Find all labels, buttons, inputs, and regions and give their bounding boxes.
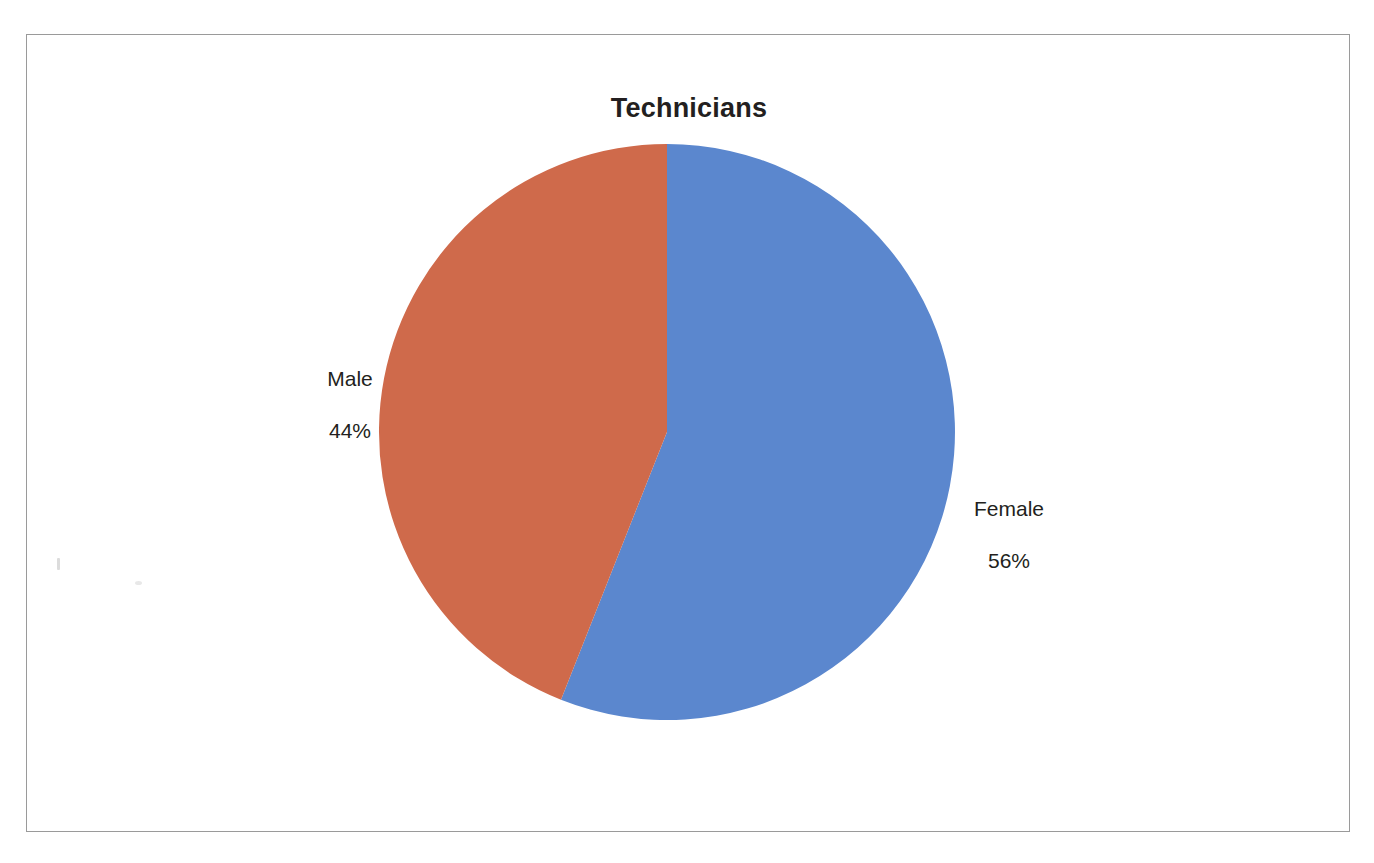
pie-label-male-name: Male <box>311 366 389 392</box>
pie-chart-graphic <box>376 141 958 723</box>
chart-title: Technicians <box>27 93 1351 124</box>
pie-label-male: Male 44% <box>311 340 389 470</box>
scan-artifact-speck <box>135 581 142 585</box>
chart-page: Technicians Male 44% Female 56% <box>0 0 1374 863</box>
pie-label-female-value: 56% <box>960 548 1058 574</box>
scan-artifact-streak <box>57 558 60 570</box>
pie-svg <box>376 141 958 723</box>
pie-label-female-name: Female <box>960 496 1058 522</box>
pie-label-female: Female 56% <box>960 470 1058 600</box>
pie-label-male-value: 44% <box>311 418 389 444</box>
